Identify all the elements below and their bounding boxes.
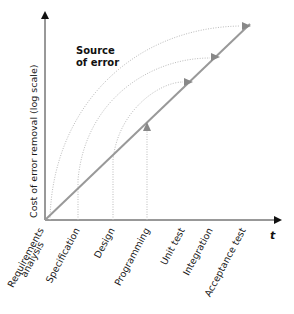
source-of-error-title-2: of error bbox=[76, 57, 119, 68]
phase-label-unit-test: Unit test bbox=[158, 226, 187, 267]
phase-label-specification: Specification bbox=[43, 226, 81, 285]
arc-specification bbox=[78, 58, 210, 180]
phase-label-design: Design bbox=[92, 226, 117, 260]
y-axis-arrow-icon bbox=[41, 11, 49, 19]
phase-label-requirements: Requirements bbox=[5, 226, 46, 290]
y-axis-label: Cost of error removal (log scale) bbox=[28, 65, 39, 218]
source-of-error-title: Source bbox=[76, 45, 115, 56]
phase-label-programming: Programming bbox=[112, 226, 152, 288]
phase-label-integration: Integration bbox=[180, 226, 214, 277]
x-axis-label: t bbox=[270, 229, 276, 242]
arrowhead-requirements-icon bbox=[242, 22, 251, 30]
cost-of-error-diagram: Source of error Cost of error removal (l… bbox=[0, 0, 294, 314]
x-axis-arrow-icon bbox=[274, 216, 282, 224]
